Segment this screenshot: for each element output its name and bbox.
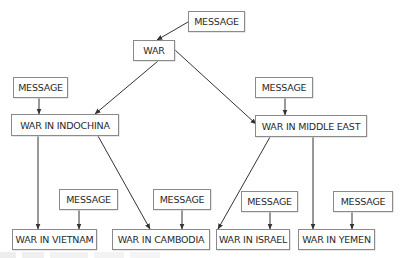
node-war-in-yemen: WAR IN YEMEN: [298, 229, 375, 250]
node-label: MESSAGE: [341, 196, 386, 207]
node-label: MESSAGE: [247, 196, 292, 207]
edge-arrow-middle-east-to-israel: [218, 137, 270, 229]
node-war: WAR: [133, 40, 175, 61]
node-war-in-indochina: WAR IN INDOCHINA: [11, 114, 119, 136]
node-message-cambodia: MESSAGE: [153, 189, 211, 210]
war-message-diagram: MESSAGE WAR MESSAGE WAR IN INDOCHINA MES…: [0, 0, 405, 258]
node-message-yemen: MESSAGE: [333, 191, 393, 212]
node-message-israel: MESSAGE: [241, 191, 298, 212]
node-label: WAR: [143, 45, 164, 56]
node-label: WAR IN CAMBODIA: [118, 234, 205, 245]
node-war-in-vietnam: WAR IN VIETNAM: [12, 229, 97, 250]
node-war-in-cambodia: WAR IN CAMBODIA: [112, 229, 210, 250]
node-message-vietnam: MESSAGE: [59, 189, 118, 210]
edge-arrow-indochina-to-cambodia: [98, 136, 150, 229]
node-war-in-israel: WAR IN ISRAEL: [216, 229, 290, 250]
node-label: WAR IN VIETNAM: [15, 234, 93, 245]
node-label: WAR IN INDOCHINA: [20, 120, 110, 131]
edge-arrow-msg-top-to-war: [157, 22, 188, 40]
node-war-in-middle-east: WAR IN MIDDLE EAST: [255, 115, 367, 137]
edge-arrow-war-to-middle-east: [175, 50, 256, 124]
node-message-right: MESSAGE: [255, 77, 313, 98]
node-label: MESSAGE: [66, 194, 111, 205]
node-message-top: MESSAGE: [188, 11, 245, 32]
node-label: MESSAGE: [194, 16, 239, 27]
edge-arrow-war-to-indochina: [95, 61, 158, 114]
node-label: MESSAGE: [160, 194, 205, 205]
node-label: WAR IN ISRAEL: [219, 234, 287, 245]
figure-caption-cropped: [0, 252, 200, 258]
node-label: WAR IN YEMEN: [302, 234, 371, 245]
node-label: MESSAGE: [262, 82, 307, 93]
node-label: WAR IN MIDDLE EAST: [262, 121, 361, 132]
node-message-left: MESSAGE: [13, 77, 68, 98]
node-label: MESSAGE: [18, 82, 63, 93]
